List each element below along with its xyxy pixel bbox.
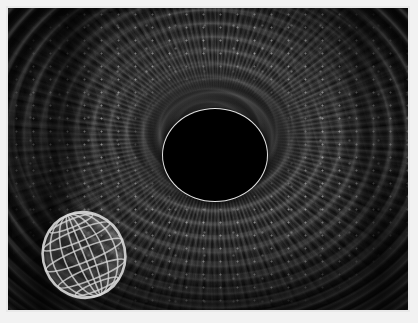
wireframe-globe-overlay xyxy=(38,207,130,303)
image-frame xyxy=(6,6,410,312)
globe-wireframe-svg xyxy=(38,207,130,303)
black-hole-shadow-disc xyxy=(163,109,267,201)
figure-container xyxy=(0,0,418,323)
illustration-canvas xyxy=(8,8,408,310)
